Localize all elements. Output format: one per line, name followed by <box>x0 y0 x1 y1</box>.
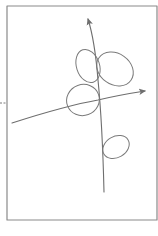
horizontal-axis-arrow <box>12 91 145 123</box>
ellipse-upper-left <box>72 46 104 85</box>
frame-border <box>7 6 157 220</box>
ellipse-upper-right <box>90 45 140 93</box>
ellipse-lower <box>99 131 134 163</box>
axes <box>12 19 145 192</box>
diagram-canvas <box>0 0 158 236</box>
vertical-axis-arrow <box>88 19 104 192</box>
ellipses <box>62 45 140 163</box>
